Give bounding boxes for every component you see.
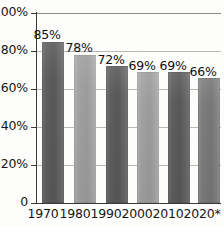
bar-1990[interactable]	[106, 66, 128, 203]
y-axis-label-60: 60%	[1, 82, 28, 94]
bar-2010[interactable]	[168, 72, 190, 203]
value-label-2020: 66%	[183, 65, 223, 78]
value-label-1970: 85%	[27, 28, 67, 41]
bar-chart: 100% 80% 60% 40% 20% 0 85% 78% 72% 69% 6…	[0, 0, 224, 227]
y-tick-0	[31, 203, 36, 204]
bar-2020[interactable]	[198, 78, 220, 203]
bar-2000[interactable]	[137, 72, 159, 203]
y-axis-label-100: 100%	[0, 6, 28, 18]
y-axis-label-40: 40%	[1, 120, 28, 132]
bar-1970[interactable]	[42, 42, 64, 204]
y-axis-label-80: 80%	[1, 44, 28, 56]
bar-1980[interactable]	[74, 55, 96, 203]
x-axis-label-2020: 2020*	[180, 207, 224, 220]
y-axis-label-20: 20%	[1, 158, 28, 170]
axis-x-line	[36, 203, 221, 204]
